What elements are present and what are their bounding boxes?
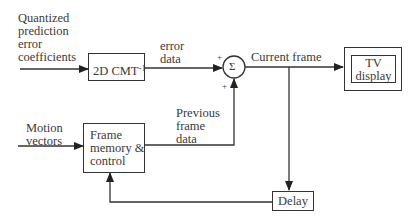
inverse-transform-label: 2D CMT-1 xyxy=(93,65,146,78)
label-line: display xyxy=(352,70,395,83)
label-line: data xyxy=(160,53,184,66)
delay-block: Delay xyxy=(272,191,314,211)
frame-memory-block: Frame memory & control xyxy=(83,123,145,173)
plus-sign-bottom: + xyxy=(222,80,227,93)
coefficients-input-label: Quantized prediction error coefficients xyxy=(18,12,76,64)
label-line: control xyxy=(90,155,145,168)
error-data-label: error data xyxy=(160,40,184,66)
current-frame-label: Current frame xyxy=(251,51,321,64)
tv-display-label: TV display xyxy=(352,57,395,83)
block-label: 2D CMT xyxy=(93,64,139,78)
tv-display-block: TV display xyxy=(344,47,402,91)
motion-vectors-label: Motion vectors xyxy=(26,122,63,148)
superscript: -1 xyxy=(139,63,147,73)
label-line: data xyxy=(176,133,220,146)
plus-sign-top: + xyxy=(217,51,222,64)
previous-frame-data-label: Previous frame data xyxy=(176,107,220,146)
label-line: vectors xyxy=(26,135,63,148)
delay-label: Delay xyxy=(273,195,313,208)
tv-display-inner: TV display xyxy=(351,55,396,83)
feedback-arrow xyxy=(110,173,272,202)
label-line: coefficients xyxy=(18,51,76,64)
frame-memory-label: Frame memory & control xyxy=(90,129,145,168)
sigma-symbol: Σ xyxy=(229,60,235,73)
inverse-transform-block: 2D CMT-1 xyxy=(88,53,145,81)
